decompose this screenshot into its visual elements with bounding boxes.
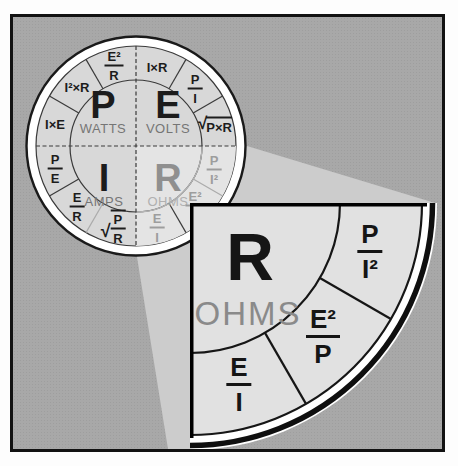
formula-e-over-i: E I: [150, 211, 165, 244]
formula-p-over-i-squared: P I²: [207, 153, 222, 186]
numerator: P: [48, 152, 63, 170]
amps-label: AMPS: [85, 195, 124, 208]
numerator: E: [150, 211, 165, 229]
denominator: R: [70, 208, 85, 223]
numerator: E²: [306, 305, 340, 338]
watts-label: WATTS: [80, 122, 127, 135]
ohms-zoom-callout: R OHMS P I² E² P E I: [190, 203, 440, 449]
formula-p-over-e: P E: [48, 152, 63, 185]
diagram-frame: P WATTS E VOLTS I AMPS R OHMS I×R P I √ …: [10, 14, 445, 452]
radicand: P×R: [206, 117, 232, 134]
denominator: I²: [207, 171, 222, 186]
denominator: I: [150, 229, 165, 244]
numerator: P: [357, 220, 382, 253]
denominator: R: [111, 230, 126, 245]
formula-e-squared-over-r: E² R: [105, 49, 124, 82]
numerator: E: [226, 353, 251, 386]
callout-formula-e-over-i: E I: [226, 353, 251, 415]
radical-sign: √: [101, 221, 111, 239]
formula-sqrt-p-times-r: √ P×R: [198, 117, 232, 134]
watts-letter: P: [90, 86, 115, 124]
formula-i-squared-times-r: I²×R: [65, 81, 90, 94]
callout-formula-p-over-i-squared: P I²: [357, 220, 382, 282]
page: { "wheel": { "quadrants": { "watts": {"l…: [0, 0, 458, 466]
denominator: I²: [357, 253, 382, 282]
denominator: I: [188, 90, 203, 105]
callout-ohms-letter: R: [226, 224, 274, 290]
denominator: R: [105, 67, 124, 82]
fraction-stack: P R: [111, 210, 126, 245]
denominator: I: [226, 386, 251, 415]
formula-i-times-e: I×E: [45, 118, 65, 131]
callout-ohms-label: OHMS: [195, 297, 302, 330]
volts-letter: E: [155, 86, 180, 124]
numerator: E²: [105, 49, 124, 67]
volts-label: VOLTS: [146, 122, 190, 135]
denominator: E: [48, 170, 63, 185]
ohms-label: OHMS: [148, 195, 189, 208]
numerator: P: [188, 72, 203, 90]
ohms-letter: R: [154, 159, 181, 197]
formula-p-over-i: P I: [188, 72, 203, 105]
formula-i-times-r: I×R: [147, 61, 168, 74]
formula-sqrt-p-over-r: √ P R: [101, 210, 126, 245]
numerator: P: [111, 210, 126, 230]
callout-formula-e-squared-over-p: E² P: [306, 305, 340, 367]
numerator: E: [70, 190, 85, 208]
numerator: P: [207, 153, 222, 171]
formula-e-over-r: E R: [70, 190, 85, 223]
amps-letter: I: [99, 159, 110, 197]
denominator: P: [306, 338, 340, 367]
